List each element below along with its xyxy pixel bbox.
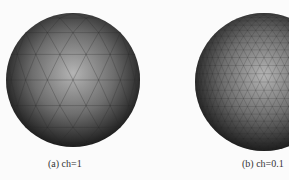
figure-panel-a: (a) ch=1	[0, 0, 145, 180]
caption-a: (a) ch=1	[48, 158, 82, 170]
coarse-mesh-sphere	[0, 0, 145, 180]
fine-mesh-sphere	[145, 0, 289, 180]
figure-panel-b: (b) ch=0.1	[145, 0, 289, 180]
caption-b: (b) ch=0.1	[242, 158, 284, 170]
